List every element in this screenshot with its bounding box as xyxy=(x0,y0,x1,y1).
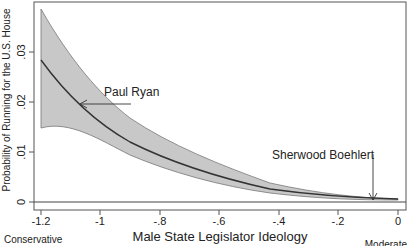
sherwood-boehlert-label: Sherwood Boehlert xyxy=(272,148,375,162)
y-tick-0: 0 xyxy=(15,199,27,205)
y-tick-02: .02 xyxy=(15,94,27,109)
paul-ryan-label: Paul Ryan xyxy=(104,85,159,99)
x-tick: 0 xyxy=(395,215,401,227)
y-tick-01: .01 xyxy=(15,144,27,159)
y-tick-03: .03 xyxy=(15,44,27,59)
x-tick: -.8 xyxy=(154,215,167,227)
x-tick: -.6 xyxy=(213,215,226,227)
x-tick: -.2 xyxy=(332,215,345,227)
x-tick: -1.2 xyxy=(32,215,51,227)
y-axis xyxy=(29,52,34,202)
x-tick: -.4 xyxy=(273,215,286,227)
y-axis-label: Probability of Running for the U.S. Hous… xyxy=(1,8,12,191)
conservative-label: Conservative xyxy=(4,234,63,245)
moderate-label: Moderate xyxy=(365,239,407,246)
x-tick: -1 xyxy=(95,215,105,227)
chart: 0 .01 .02 .03 Probability of Running for… xyxy=(0,0,407,246)
x-axis-label: Male State Legislator Ideology xyxy=(133,229,308,244)
